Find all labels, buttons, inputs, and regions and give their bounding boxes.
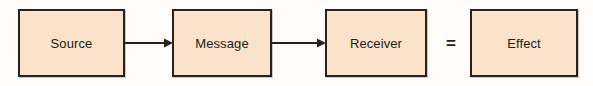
node-source: Source [18,9,125,77]
node-effect: Effect [470,9,578,77]
arrow-message-to-receiver [272,37,326,49]
node-message-label: Message [195,37,248,50]
communication-model-diagram: Source Message Receiver = Effect [0,0,593,86]
node-source-label: Source [51,37,93,50]
node-effect-label: Effect [507,37,541,50]
node-receiver: Receiver [325,9,427,77]
node-message: Message [172,9,272,77]
node-receiver-label: Receiver [350,37,402,50]
arrow-source-to-message [125,37,173,49]
equals-icon: = [432,30,470,56]
equals-symbol: = [446,35,456,52]
